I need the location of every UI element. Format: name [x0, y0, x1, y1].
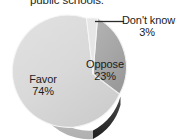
pie-chart-figure: public schools. — [0, 0, 187, 140]
pie-label-favor-name: Favor — [12, 73, 74, 85]
pie-label-dont-know-value: 3% — [120, 26, 186, 38]
pie-label-favor-value: 74% — [12, 85, 74, 97]
pie-label-oppose-value: 23% — [77, 70, 133, 82]
pie-label-favor: Favor 74% — [12, 73, 74, 97]
pie-label-oppose-name: Oppose — [77, 58, 133, 70]
pie-label-oppose: Oppose 23% — [77, 58, 133, 82]
pie-label-dont-know-name: Don't know — [120, 14, 186, 26]
pie-label-dont-know: Don't know 3% — [120, 14, 186, 38]
